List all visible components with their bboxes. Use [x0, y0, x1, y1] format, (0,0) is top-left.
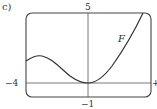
left-tick-label: −4 [5, 78, 19, 88]
curve-f [26, 13, 143, 83]
viewing-window-frame [26, 13, 151, 97]
panel-label: c) [2, 1, 12, 12]
curve-label: F [117, 33, 126, 44]
x-bottom-tick-label: −1 [81, 99, 94, 109]
right-tick-label: + [152, 78, 157, 88]
y-top-tick-label: 5 [85, 2, 91, 12]
graph-figure: c) 5 −1 −4 + F [0, 0, 157, 109]
